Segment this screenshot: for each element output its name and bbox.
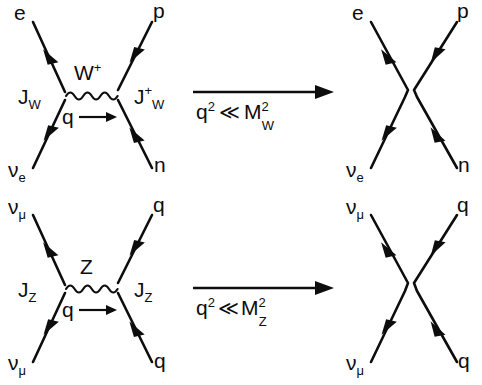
label-momentum-q-top: q (62, 105, 74, 128)
momentum-arrow-bottom (79, 305, 117, 315)
label-momentum-q-bottom: q (62, 298, 74, 321)
label-top-condition: q2≪M2W (196, 99, 275, 133)
label-q-bot-right-panel: q (458, 349, 470, 372)
label-current-jz-left: JZ (18, 278, 37, 305)
contact-line-left-bottom (371, 215, 408, 362)
label-w-boson: W+ (74, 60, 101, 84)
label-current-jw-right: J+W (134, 83, 165, 112)
label-z-boson: Z (80, 255, 93, 278)
panel-top-left: W+ e p νe n JW J+W q (8, 0, 166, 185)
feynman-diagram-figure: W+ e p νe n JW J+W q q2≪M2W (0, 0, 482, 385)
panel-top-right: e p νe n (346, 0, 470, 185)
label-q-bot-left-panel: q (154, 349, 166, 372)
label-nu-mu-top-right: νμ (346, 195, 364, 222)
arrowhead-numu-contact-top (381, 240, 396, 258)
top-transition-arrow (193, 85, 334, 99)
label-current-jz-right: JZ (134, 278, 153, 305)
label-nu-e-top-left: νe (8, 158, 26, 185)
contact-line-right-top (414, 22, 457, 168)
momentum-arrow-top (79, 112, 117, 122)
label-p-top-right: p (457, 0, 469, 22)
label-nu-mu-bot-right: νμ (346, 351, 364, 378)
label-n-top-left: n (154, 153, 166, 176)
label-e-top-left: e (14, 1, 26, 24)
contact-line-left-top (371, 22, 408, 168)
label-q-top-left-panel: q (153, 193, 165, 216)
label-n-top-right: n (458, 153, 470, 176)
diagram-canvas: W+ e p νe n JW J+W q q2≪M2W (0, 0, 482, 385)
z-boson-propagator (66, 286, 118, 293)
label-current-jw-left: JW (18, 85, 42, 112)
panel-bottom-right: νμ q νμ q (346, 193, 470, 378)
label-e-top-right: e (352, 1, 364, 24)
label-p-top-left: p (153, 0, 165, 22)
label-nu-mu-top-left: νμ (8, 195, 26, 222)
label-bottom-condition: q2≪M2Z (196, 295, 267, 329)
label-nu-mu-bot-left: νμ (8, 351, 26, 378)
label-nu-e-top-right: νe (346, 158, 364, 185)
label-q-top-right-panel: q (457, 193, 469, 216)
panel-bottom-left: Z νμ q νμ q JZ JZ q (8, 193, 166, 378)
w-boson-propagator (66, 93, 118, 100)
arrowhead-e-contact (381, 47, 396, 65)
bottom-transition-arrow (193, 281, 334, 295)
contact-line-right-bottom (414, 215, 457, 362)
